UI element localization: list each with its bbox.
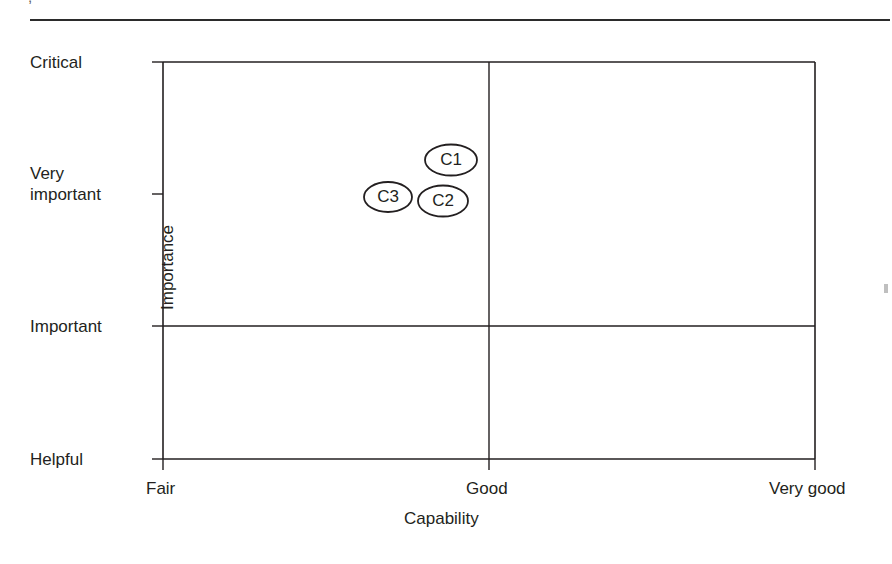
y-tick-label-very-important-line2: important (30, 184, 101, 205)
x-axis-ticks (163, 459, 815, 470)
x-tick-label-very-good: Very good (769, 478, 846, 499)
data-marker-label-c2: C2 (423, 191, 463, 211)
chart-page: , (0, 0, 892, 564)
data-marker-label-c1: C1 (431, 150, 471, 170)
y-axis-title: Importance (158, 225, 178, 310)
y-tick-label-very-important-line1: Very (30, 163, 64, 184)
data-marker-label-c3: C3 (368, 187, 408, 207)
y-tick-label-critical: Critical (30, 52, 82, 73)
y-tick-label-helpful: Helpful (30, 449, 83, 470)
scan-artifact-speck (884, 284, 888, 293)
x-tick-label-good: Good (466, 478, 508, 499)
x-tick-label-fair: Fair (146, 478, 175, 499)
quadrant-dividers (163, 62, 815, 459)
x-axis-title: Capability (404, 509, 479, 529)
chart-canvas (0, 0, 892, 564)
y-tick-label-important: Important (30, 316, 102, 337)
